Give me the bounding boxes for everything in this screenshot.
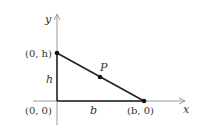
label-base: b xyxy=(90,104,97,117)
label-top-point: (0, h) xyxy=(25,48,52,59)
label-origin: (0, 0) xyxy=(25,105,52,116)
triangle-diagram: y x (0, h) (0, 0) (b, 0) P h b xyxy=(0,0,202,131)
point-top xyxy=(55,51,60,56)
point-right xyxy=(142,99,147,104)
label-right-point: (b, 0) xyxy=(127,105,154,116)
label-p: P xyxy=(99,61,108,74)
label-height: h xyxy=(46,73,53,86)
x-axis-label: x xyxy=(183,103,190,116)
y-axis-label: y xyxy=(44,13,52,26)
point-p xyxy=(98,75,103,80)
